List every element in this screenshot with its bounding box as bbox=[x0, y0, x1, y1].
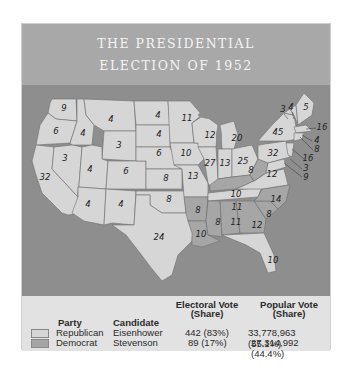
ev-mo: 13 bbox=[188, 171, 199, 181]
ev-ky: 10 bbox=[231, 189, 242, 199]
ev-ut: 4 bbox=[87, 164, 92, 174]
state-sd bbox=[136, 125, 170, 147]
ev-oh: 25 bbox=[238, 156, 249, 166]
electoral-democrat: 89 (17%) bbox=[188, 337, 227, 348]
ev-nd: 4 bbox=[155, 110, 160, 120]
ev-az: 4 bbox=[85, 199, 90, 209]
party-democrat: Democrat bbox=[56, 337, 97, 348]
ev-md: 9 bbox=[303, 172, 308, 182]
title-line-1: THE PRESIDENTIAL bbox=[22, 24, 330, 55]
election-map-panel: THE PRESIDENTIAL ELECTION OF 1952 bbox=[21, 23, 331, 350]
ev-wa: 9 bbox=[61, 103, 66, 113]
header-candidate: Candidate bbox=[113, 318, 159, 327]
header-electoral-line2: (Share) bbox=[172, 309, 242, 318]
ev-sd: 4 bbox=[156, 129, 161, 139]
ev-ct: 8 bbox=[314, 144, 320, 154]
ev-ok: 8 bbox=[166, 194, 172, 204]
swatch-republican bbox=[31, 329, 49, 338]
header-electoral-vote: Electoral Vote (Share) bbox=[172, 300, 242, 318]
ev-ms: 8 bbox=[215, 217, 221, 227]
ev-la: 10 bbox=[196, 229, 207, 239]
state-ma bbox=[294, 125, 312, 133]
lake-superior bbox=[198, 111, 226, 119]
ev-sc: 8 bbox=[266, 209, 272, 219]
ev-ar: 8 bbox=[195, 205, 201, 215]
ev-vt: 3 bbox=[280, 104, 285, 114]
title-band: THE PRESIDENTIAL ELECTION OF 1952 bbox=[22, 24, 330, 85]
ev-ga: 12 bbox=[252, 220, 263, 230]
ev-nm: 4 bbox=[118, 199, 123, 209]
ev-wi: 12 bbox=[205, 130, 216, 140]
ev-ny: 45 bbox=[273, 127, 284, 137]
ev-id: 4 bbox=[80, 128, 85, 138]
popular-democrat: 27,314,992 (44.4%) bbox=[251, 337, 330, 359]
state-nd bbox=[134, 101, 170, 125]
state-fl bbox=[222, 233, 276, 273]
ev-nh: 4 bbox=[288, 102, 293, 112]
header-popular-vote: Popular Vote (Share) bbox=[250, 300, 328, 318]
us-electoral-map: 9 6 32 4 3 4 3 4 6 4 4 4 4 6 8 8 24 11 1… bbox=[22, 85, 330, 296]
ev-nv: 3 bbox=[62, 153, 67, 163]
ev-ks: 8 bbox=[163, 173, 169, 183]
candidate-stevenson: Stevenson bbox=[113, 337, 158, 348]
ev-al: 11 bbox=[231, 217, 242, 227]
ev-nc: 14 bbox=[271, 194, 282, 204]
swatch-democrat bbox=[31, 339, 49, 348]
ev-or: 6 bbox=[53, 126, 59, 136]
header-party: Party bbox=[58, 318, 82, 327]
ev-mi: 20 bbox=[232, 133, 243, 143]
ev-ia: 10 bbox=[181, 148, 192, 158]
ev-mt: 4 bbox=[108, 114, 113, 124]
ev-ne: 6 bbox=[156, 148, 162, 158]
ev-me: 5 bbox=[303, 102, 308, 112]
header-popular-line2: (Share) bbox=[250, 309, 328, 318]
ev-il: 27 bbox=[205, 158, 216, 168]
ev-in: 13 bbox=[220, 158, 231, 168]
ev-tn: 11 bbox=[232, 202, 243, 212]
ev-nj: 16 bbox=[303, 153, 314, 163]
ev-ma: 16 bbox=[317, 122, 328, 132]
ev-co: 6 bbox=[123, 166, 129, 176]
ev-wv: 8 bbox=[248, 165, 254, 175]
ev-ca: 32 bbox=[40, 172, 51, 182]
ev-wy: 3 bbox=[116, 140, 121, 150]
map-svg: 9 6 32 4 3 4 3 4 6 4 4 4 4 6 8 8 24 11 1… bbox=[22, 85, 330, 296]
ev-pa: 32 bbox=[268, 148, 279, 158]
title-line-2: ELECTION OF 1952 bbox=[22, 55, 330, 77]
legend-table: Party Candidate Electoral Vote (Share) P… bbox=[22, 296, 330, 351]
ev-va: 12 bbox=[267, 169, 278, 179]
ev-mn: 11 bbox=[182, 113, 193, 123]
lake-michigan bbox=[216, 126, 222, 148]
lake-erie bbox=[243, 140, 265, 146]
ev-tx: 24 bbox=[154, 232, 165, 242]
ev-fl: 10 bbox=[268, 255, 279, 265]
